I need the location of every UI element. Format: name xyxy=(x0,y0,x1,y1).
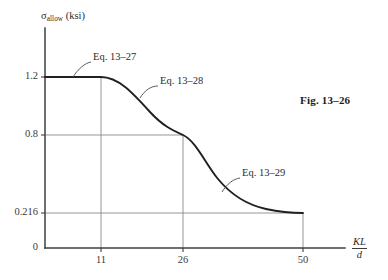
allowable-stress-curve xyxy=(45,77,303,213)
ytick-label-0.8: 0.8 xyxy=(2,129,38,140)
annotation-eq-13-28: Eq. 13–28 xyxy=(160,76,203,87)
ytick-label-0: 0 xyxy=(2,242,38,253)
figure-caption: Fig. 13–26 xyxy=(300,95,350,106)
xtick-label-11: 11 xyxy=(86,255,116,266)
x-axis-title: KL d xyxy=(352,236,367,260)
plot-area xyxy=(0,0,388,280)
y-axis-subscript: allow xyxy=(47,15,63,23)
x-axis-title-denominator: d xyxy=(352,249,367,261)
xtick-label-26: 26 xyxy=(168,255,198,266)
xtick-label-50: 50 xyxy=(288,255,318,266)
figure-container: σallow (ksi) 1.2 0.8 0.216 0 11 26 50 KL… xyxy=(0,0,388,280)
y-axis-units: (ksi) xyxy=(66,10,85,21)
annotation-eq-13-27: Eq. 13–27 xyxy=(93,52,136,63)
tick-marks xyxy=(41,77,303,252)
leader-line-eq-13-28 xyxy=(140,86,158,98)
leader-line-eq-13-29 xyxy=(222,178,240,192)
ytick-label-0.216: 0.216 xyxy=(2,207,38,218)
y-axis-title: σallow (ksi) xyxy=(41,11,85,23)
leader-line-eq-13-27 xyxy=(73,62,91,77)
axes xyxy=(45,28,345,248)
ytick-label-1.2: 1.2 xyxy=(2,71,38,82)
annotation-eq-13-29: Eq. 13–29 xyxy=(242,168,285,179)
gridlines xyxy=(45,77,303,248)
x-axis-title-numerator: KL xyxy=(352,236,367,249)
